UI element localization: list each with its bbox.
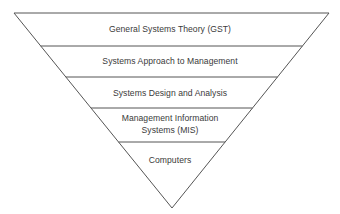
pyramid-triangle [14,13,329,208]
layer-gst-label: General Systems Theory (GST) [0,23,340,35]
layer-systems-design-label: Systems Design and Analysis [0,87,340,99]
layer-computers-label: Computers [0,154,340,166]
layer-mis-label-line1: Management Information [0,112,340,124]
inverted-pyramid-diagram: General Systems Theory (GST) Systems App… [0,0,340,214]
layer-systems-approach-label: Systems Approach to Management [0,55,340,67]
layer-mis-label-line2: Systems (MIS) [0,124,340,136]
